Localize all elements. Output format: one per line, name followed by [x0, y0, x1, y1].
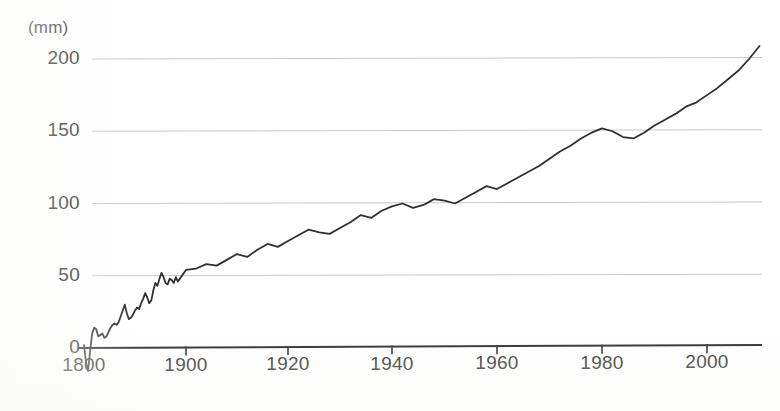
gridline — [92, 58, 762, 60]
x-axis-tick-label: 1800 — [54, 354, 114, 376]
y-axis-tick-label: 100 — [14, 192, 80, 214]
x-axis-tick-label: 1960 — [467, 352, 527, 374]
gridline — [92, 130, 762, 132]
line-chart-plot — [0, 0, 780, 411]
y-axis-tick-label: 50 — [14, 264, 80, 286]
x-axis-tick-label: 1920 — [258, 353, 318, 375]
x-axis-line — [78, 345, 762, 348]
x-axis-tick-label: 1900 — [156, 354, 216, 376]
x-axis-tick-label: 2000 — [677, 351, 737, 373]
x-axis-tick-label: 1980 — [572, 352, 632, 374]
y-axis-tick-label: 200 — [14, 47, 80, 69]
x-axis-tick-label: 1940 — [362, 353, 422, 375]
chart-container: (mm) 050100150200 1800190019201940196019… — [0, 0, 780, 411]
y-axis-unit-label: (mm) — [28, 18, 68, 38]
y-axis-tick-label: 150 — [14, 119, 80, 141]
gridline — [92, 274, 762, 276]
gridlines — [92, 58, 762, 276]
data-series-line — [84, 46, 760, 371]
